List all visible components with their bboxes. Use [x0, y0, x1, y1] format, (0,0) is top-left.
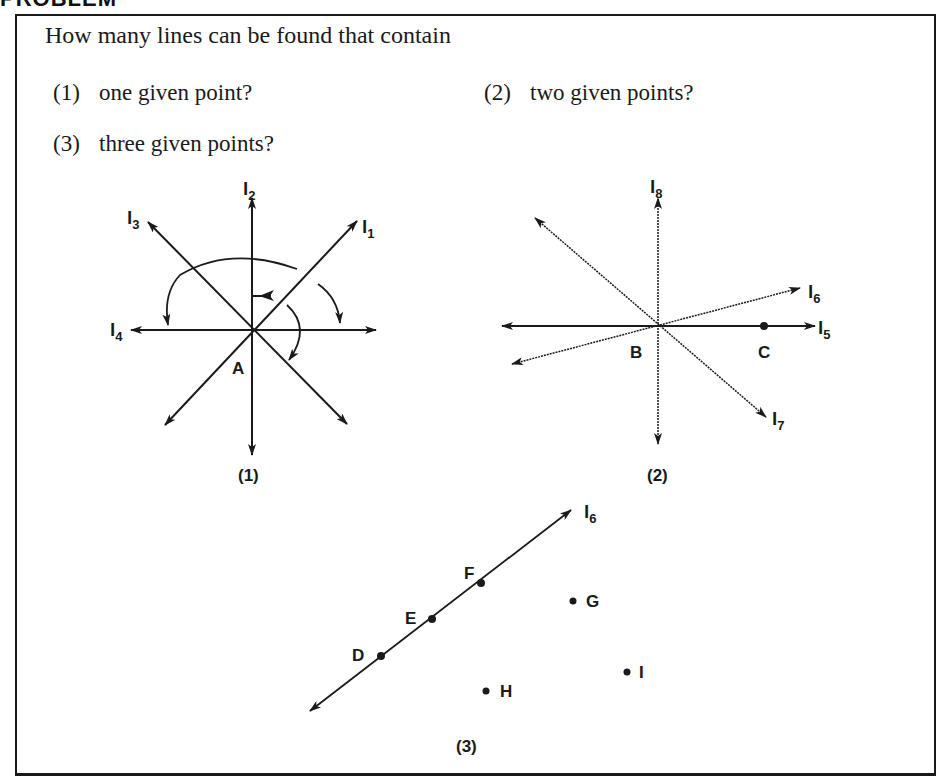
- label-l1: l1: [362, 216, 375, 241]
- label-l2: l2: [243, 178, 256, 203]
- point-e-dot: [428, 615, 436, 623]
- line-l3: [148, 222, 347, 424]
- figure-2: l8 l6 l5 l7 B C (2): [502, 176, 831, 485]
- label-l3: l3: [127, 207, 140, 232]
- label-point-f: F: [464, 564, 474, 583]
- caption-fig1: (1): [238, 466, 259, 485]
- label-l8: l8: [650, 176, 663, 201]
- label-point-g: G: [586, 592, 599, 611]
- label-l6: l6: [808, 281, 821, 306]
- line-l1: [165, 221, 357, 425]
- rotation-arc-left: [167, 258, 297, 325]
- rotation-arc-right: [318, 284, 340, 323]
- label-l6-fig3: l6: [584, 501, 597, 526]
- point-h-dot: [483, 688, 490, 695]
- rotation-arc-lower: [287, 305, 300, 360]
- label-point-h: H: [500, 682, 512, 701]
- label-point-d: D: [352, 646, 364, 665]
- point-g-dot: [570, 598, 577, 605]
- label-point-i: I: [639, 663, 644, 682]
- label-l5: l5: [818, 317, 831, 342]
- point-c-dot: [760, 322, 768, 330]
- rotation-tick-arrow-icon: [259, 290, 274, 301]
- caption-fig2: (2): [647, 466, 668, 485]
- label-point-a: A: [232, 359, 244, 378]
- label-point-c: C: [758, 343, 770, 362]
- label-point-e: E: [405, 609, 416, 628]
- point-i-dot: [624, 669, 631, 676]
- figures-canvas: l2 l3 l1 l4 A (1) l8 l6 l5 l7 B C (2) l6…: [0, 0, 949, 781]
- caption-fig3: (3): [456, 737, 477, 756]
- label-l7: l7: [772, 408, 785, 433]
- label-point-b: B: [630, 343, 642, 362]
- line-l7: [535, 218, 766, 417]
- point-d-dot: [377, 652, 385, 660]
- line-l6-collinear: [310, 510, 571, 711]
- figure-1: l2 l3 l1 l4 A (1): [110, 178, 376, 485]
- point-f-dot: [477, 579, 485, 587]
- figure-3: l6 D E F G H I (3): [310, 501, 644, 756]
- label-l4: l4: [110, 319, 123, 344]
